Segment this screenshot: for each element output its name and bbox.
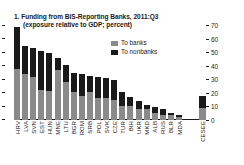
- bar-tur: [119, 92, 125, 120]
- x-label-pol: POL: [96, 121, 102, 133]
- bar-mkd: [144, 105, 150, 120]
- x-label-est: EST: [39, 121, 45, 133]
- x-label-hrv: HRV: [15, 121, 21, 134]
- bar-segment-to-banks: [38, 90, 44, 120]
- bar-segment-to-banks: [63, 82, 69, 120]
- left-tick-10: [2, 106, 5, 107]
- x-label-rom: ROM: [79, 121, 85, 135]
- bar-segment-to-nonbanks: [95, 77, 101, 98]
- bar-ukr: [136, 101, 142, 120]
- y-tick-10: 10: [206, 103, 218, 110]
- left-tick-30: [2, 79, 5, 80]
- y-tick-label: 70: [211, 22, 218, 29]
- bar-segment-to-nonbanks: [144, 105, 150, 109]
- y-tick-label: 50: [211, 49, 218, 56]
- y-tick-dash: [206, 25, 209, 26]
- bar-segment-to-nonbanks: [63, 65, 69, 83]
- bar-segment-to-banks: [111, 100, 117, 120]
- x-label-hun: HUN: [47, 121, 53, 134]
- bar-segment-to-banks: [176, 117, 182, 120]
- y-axis-ticks: 010203040506070: [206, 19, 244, 120]
- x-label-bgr: BGR: [71, 121, 77, 134]
- bar-segment-to-nonbanks: [30, 48, 36, 77]
- bar-hrv: [14, 27, 20, 120]
- y-tick-dash: [206, 66, 209, 67]
- bar-svk: [103, 78, 109, 120]
- y-tick-label: 20: [211, 90, 218, 97]
- left-tick-20: [2, 92, 5, 93]
- bar-segment-to-nonbanks: [14, 27, 20, 69]
- bar-alb: [152, 107, 158, 120]
- bar-segment-to-banks: [136, 109, 142, 120]
- x-label-ukr: UKR: [136, 121, 142, 134]
- bar-segment-to-banks: [160, 115, 166, 120]
- left-tick-0: [2, 119, 5, 120]
- y-tick-50: 50: [206, 49, 218, 56]
- bar-blr: [168, 113, 174, 120]
- bar-segment-to-nonbanks: [176, 115, 182, 117]
- bar-segment-to-banks: [127, 106, 133, 120]
- bar-mne: [55, 58, 61, 120]
- bar-segment-to-banks: [71, 92, 77, 120]
- x-label-ltu: LTU: [63, 121, 69, 132]
- plot-area: [14, 19, 206, 120]
- bar-pol: [95, 77, 101, 120]
- bar-segment-to-nonbanks: [22, 46, 28, 74]
- y-tick-dash: [206, 93, 209, 94]
- y-tick-dash: [206, 39, 209, 40]
- y-tick-label: 0: [211, 117, 215, 124]
- y-tick-dash: [206, 79, 209, 80]
- left-tick-70: [2, 25, 5, 26]
- x-label-mne: MNE: [55, 121, 61, 135]
- bar-est: [38, 51, 44, 120]
- bar-cze: [111, 80, 117, 120]
- x-label-svn: SVN: [31, 121, 37, 134]
- bar-segment-to-banks: [79, 96, 85, 120]
- x-label-cze: CZE: [112, 121, 118, 133]
- bar-segment-to-banks: [30, 77, 36, 120]
- x-label-cesee: CESEE: [200, 121, 206, 142]
- x-label-srb: SRB: [87, 121, 93, 134]
- bar-ltu: [63, 65, 69, 120]
- bar-segment-to-banks: [152, 113, 158, 120]
- bar-segment-to-nonbanks: [119, 92, 125, 105]
- bar-segment-to-nonbanks: [160, 109, 166, 114]
- bar-segment-to-nonbanks: [103, 78, 109, 98]
- y-tick-label: 40: [211, 63, 218, 70]
- bar-segment-to-nonbanks: [136, 101, 142, 108]
- y-tick-30: 30: [206, 76, 218, 83]
- bar-segment-to-banks: [14, 69, 20, 120]
- y-tick-60: 60: [206, 36, 218, 43]
- bar-segment-to-banks: [103, 98, 109, 120]
- bar-segment-to-nonbanks: [168, 113, 174, 115]
- bar-bgr: [71, 73, 77, 120]
- x-label-alb: ALB: [152, 121, 158, 133]
- bar-segment-to-nonbanks: [199, 96, 206, 108]
- bar-rus: [160, 109, 166, 120]
- bar-cesee: [199, 96, 206, 120]
- bar-segment-to-banks: [46, 91, 52, 120]
- y-tick-70: 70: [206, 22, 218, 29]
- y-tick-dash: [206, 120, 209, 121]
- left-tick-60: [2, 38, 5, 39]
- bar-segment-to-nonbanks: [127, 97, 133, 106]
- left-tick-50: [2, 52, 5, 53]
- y-tick-0: 0: [206, 117, 215, 124]
- x-label-rus: RUS: [160, 121, 166, 134]
- bar-segment-to-nonbanks: [87, 76, 93, 93]
- bar-group: [14, 19, 192, 120]
- bar-mda: [176, 115, 182, 120]
- x-label-bih: BIH: [128, 121, 134, 131]
- chart-figure: 1. Funding from BIS-Reporting Banks, 201…: [0, 0, 244, 165]
- bar-segment-to-banks: [55, 70, 61, 120]
- x-label-blr: BLR: [168, 121, 174, 133]
- bar-svn: [30, 48, 36, 120]
- bar-segment-to-nonbanks: [71, 73, 77, 92]
- bar-segment-to-nonbanks: [55, 58, 61, 70]
- bar-hun: [46, 53, 52, 120]
- bar-segment-to-nonbanks: [111, 80, 117, 100]
- x-label-mda: MDA: [177, 121, 183, 135]
- y-tick-20: 20: [206, 90, 218, 97]
- y-tick-label: 30: [211, 76, 218, 83]
- bar-segment-to-banks: [95, 98, 101, 120]
